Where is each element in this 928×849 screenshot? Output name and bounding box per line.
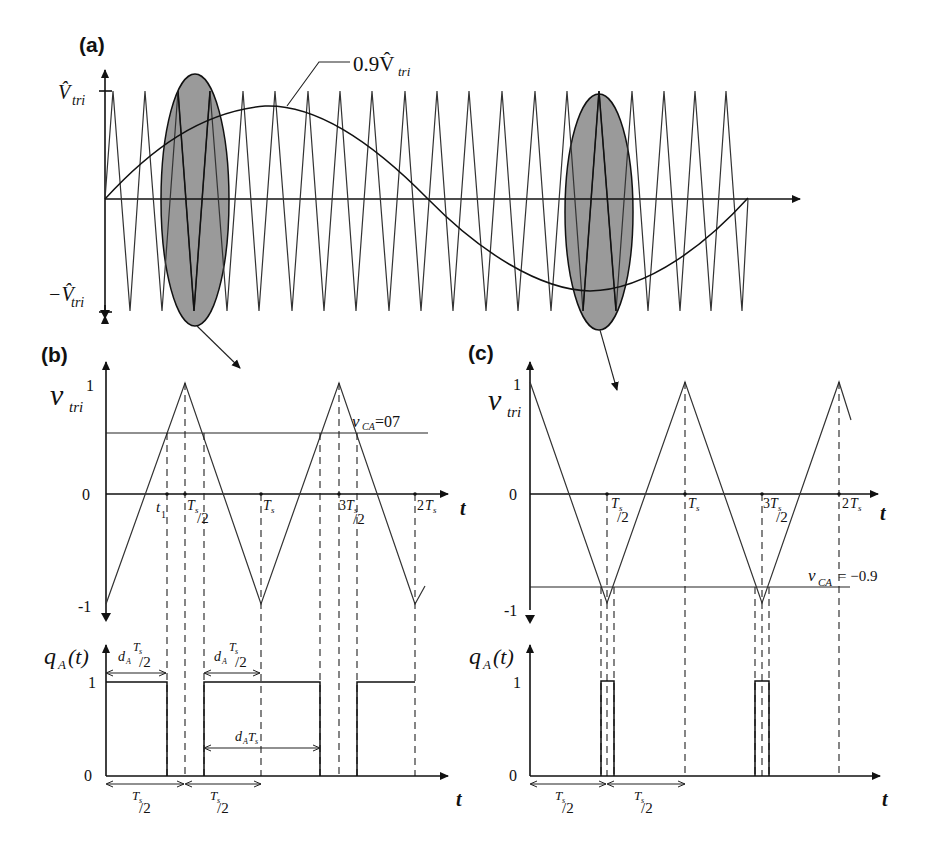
panel-c: (c) v tri 1 0 -1 v CA = −0.9 T s / (468, 341, 889, 816)
svg-text:v: v (352, 412, 360, 431)
b-q-tick-0: 0 (84, 767, 92, 784)
b-t-label: t (460, 497, 467, 519)
c-tick-ts-half: T s /2 (611, 496, 629, 525)
b-vca-label: v CA =07 (352, 412, 400, 432)
svg-text:tri: tri (398, 64, 411, 79)
svg-text:s: s (858, 503, 862, 513)
svg-text:CA: CA (362, 421, 376, 432)
svg-text:s: s (696, 503, 700, 513)
svg-text:/2: /2 (776, 509, 788, 525)
panel-c-label: (c) (468, 341, 494, 364)
svg-text:(t): (t) (68, 644, 89, 669)
svg-text:2: 2 (417, 498, 424, 513)
c-tick-2ts: 2 T s (842, 496, 862, 513)
svg-text:q: q (44, 643, 56, 669)
svg-text:3: 3 (339, 498, 346, 513)
b-tick-2ts: 2 T s (417, 498, 437, 515)
svg-text:A: A (221, 657, 227, 666)
svg-text:tri: tri (72, 93, 85, 108)
c-tick-ts: T s (688, 496, 700, 513)
b-qa-t-label: t (456, 788, 463, 810)
svg-text:V̂: V̂ (58, 81, 73, 103)
c-q-tick-1: 1 (513, 674, 521, 691)
svg-text:(t): (t) (493, 644, 514, 669)
svg-text:s: s (433, 505, 437, 515)
annotation-09vtri: 0.9V̂ tri (353, 52, 411, 79)
svg-text:A: A (125, 657, 131, 666)
b-dim-label-5: T s /2 (210, 788, 229, 816)
b-dim-label-2: d A T s /2 (214, 640, 247, 670)
svg-text:tri: tri (507, 404, 521, 420)
svg-text:0.9V̂: 0.9V̂ (353, 52, 394, 76)
svg-text:= −0.9: = −0.9 (838, 568, 877, 584)
b-q-tick-1: 1 (88, 674, 96, 691)
b-dim-label-3: d A T s (235, 729, 258, 746)
a-vhat-label: V̂ tri (58, 81, 85, 108)
zoom-arrow-c (600, 330, 617, 390)
svg-text:3: 3 (763, 496, 770, 511)
svg-text:A: A (57, 657, 66, 672)
a-neg-vhat-label: −V̂ tri (48, 283, 84, 310)
svg-text:/2: /2 (617, 509, 629, 525)
zoom-arrow-b (197, 326, 240, 368)
svg-text:/2: /2 (235, 654, 247, 670)
svg-text:v: v (50, 378, 64, 411)
b-tick-ts-half: T s /2 (187, 498, 209, 526)
svg-text:CA: CA (818, 576, 832, 588)
svg-text:/2: /2 (562, 800, 574, 816)
svg-text:1: 1 (161, 509, 166, 520)
svg-text:/2: /2 (217, 800, 229, 816)
b-pwm-pulses (106, 682, 167, 776)
c-qa-label: q A (t) (469, 643, 514, 672)
svg-text:d: d (235, 729, 243, 744)
b-dim-label-1: d A T s /2 (118, 640, 151, 670)
svg-text:v: v (808, 566, 816, 585)
svg-text:tri: tri (71, 295, 84, 310)
c-dim-label-2: T s /2 (634, 788, 653, 816)
b-tick-0: 0 (82, 486, 90, 503)
c-vca-label: v CA = −0.9 (808, 566, 877, 588)
c-triangle (530, 382, 851, 603)
b-vtri-label: v tri (50, 378, 83, 415)
svg-text:d: d (214, 649, 222, 664)
svg-text:tri: tri (69, 399, 83, 415)
svg-text:/2: /2 (641, 800, 653, 816)
c-q-tick-0: 0 (509, 767, 517, 784)
b-qa-label: q A (t) (44, 643, 89, 672)
c-dim-label-1: T s /2 (555, 788, 574, 816)
b-tick-t1: t 1 (156, 499, 166, 520)
b-tick-neg1: -1 (78, 598, 91, 615)
c-tick-0: 0 (509, 486, 517, 503)
svg-text:s: s (271, 505, 275, 515)
svg-text:d: d (118, 649, 126, 664)
svg-text:/2: /2 (139, 800, 151, 816)
svg-text:=07: =07 (375, 413, 400, 430)
c-t-label: t (880, 502, 887, 524)
b-tick-1: 1 (86, 377, 94, 394)
svg-text:A: A (482, 657, 491, 672)
svg-text:/2: /2 (197, 510, 209, 526)
svg-text:/2: /2 (353, 511, 365, 527)
svg-text:/2: /2 (139, 654, 151, 670)
c-tick-neg1: -1 (504, 602, 517, 619)
panel-a: (a) V̂ tri −V̂ tri 0.9V̂ (48, 33, 800, 390)
c-qa-t-label: t (882, 788, 889, 810)
svg-text:s: s (255, 737, 258, 746)
svg-text:q: q (469, 643, 481, 669)
svg-text:v: v (488, 383, 502, 416)
b-tick-3ts-half: 3 T s /2 (339, 498, 365, 527)
c-tick-3ts-half: 3 T s /2 (763, 496, 788, 525)
panel-b-label: (b) (41, 343, 68, 366)
svg-text:2: 2 (842, 496, 849, 511)
c-tick-1: 1 (513, 376, 521, 393)
b-dim-label-4: T s /2 (132, 788, 151, 816)
b-tick-ts: T s (263, 498, 275, 515)
panel-a-label: (a) (79, 33, 105, 56)
panel-b: (b) v tri 1 0 -1 v CA =07 (41, 343, 467, 816)
pwm-figure: (a) V̂ tri −V̂ tri 0.9V̂ (0, 0, 928, 849)
